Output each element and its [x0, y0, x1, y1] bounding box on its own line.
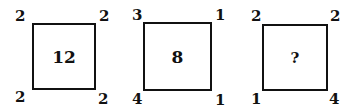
square-2-bottom-left: 4 — [132, 92, 142, 107]
square-2-center: 8 — [145, 48, 210, 65]
square-2-top-left: 3 — [132, 8, 142, 23]
square-2-top-right: 1 — [215, 8, 225, 23]
square-2-bottom-right: 1 — [215, 93, 225, 108]
square-2-box: 8 — [143, 22, 212, 91]
square-3-top-right: 2 — [330, 9, 340, 24]
square-3-top-left: 2 — [251, 9, 261, 24]
square-3-bottom-right: 4 — [329, 92, 339, 107]
square-1-box: 12 — [32, 23, 96, 90]
square-3-bottom-left: 1 — [251, 92, 261, 107]
square-3-box: ? — [262, 24, 328, 91]
number-puzzle: 2 2 12 2 2 3 1 8 4 1 2 2 ? 1 4 — [0, 0, 354, 111]
square-3-center-unknown: ? — [264, 50, 326, 65]
square-1-top-left: 2 — [15, 9, 25, 24]
square-1-bottom-right: 2 — [98, 92, 108, 107]
square-1-top-right: 2 — [99, 9, 109, 24]
square-1-center: 12 — [34, 48, 94, 65]
square-1-bottom-left: 2 — [15, 90, 25, 105]
